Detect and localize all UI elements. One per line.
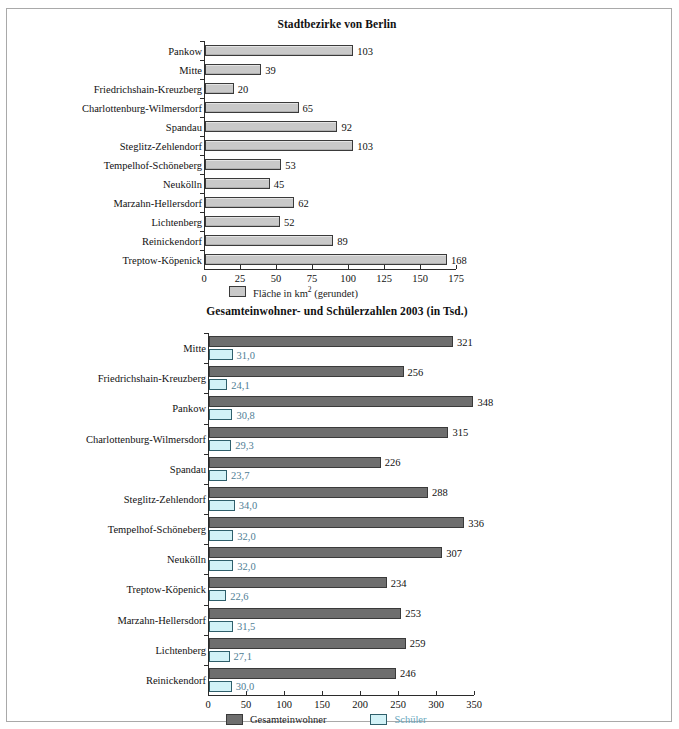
- x-tick-label: 300: [428, 699, 444, 710]
- x-tick: [456, 265, 457, 269]
- category-tick: [204, 514, 208, 515]
- bar-value-label: 23,7: [231, 470, 249, 481]
- category-tick: [200, 231, 204, 232]
- bar-schueler: [209, 681, 232, 692]
- bar-gesamteinwohner: [209, 396, 473, 407]
- bar-value-label: 288: [432, 487, 448, 498]
- legend-label-schueler: Schüler: [394, 714, 426, 725]
- category-tick: [200, 136, 204, 137]
- category-tick: [204, 424, 208, 425]
- category-label: Neukölln: [163, 178, 202, 189]
- x-tick-label: 50: [241, 699, 252, 710]
- category-tick: [204, 363, 208, 364]
- bar-value-label: 30,8: [236, 409, 254, 420]
- category-label: Neukölln: [167, 554, 206, 565]
- x-tick-label: 125: [376, 273, 392, 284]
- legend-item-schueler: Schüler: [370, 714, 426, 725]
- legend-item-area: Fläche in km2 (gerundet): [229, 285, 358, 299]
- chart1-legend: Fläche in km2 (gerundet): [229, 285, 358, 299]
- bar-value-label: 27,1: [234, 651, 252, 662]
- x-tick-label: 150: [412, 273, 428, 284]
- bar-flaeche: [205, 216, 280, 227]
- x-tick-label: 50: [271, 273, 282, 284]
- x-tick-label: 150: [314, 699, 330, 710]
- x-tick: [398, 691, 399, 695]
- x-tick: [204, 265, 205, 269]
- bar-schueler: [209, 379, 227, 390]
- category-label: Spandau: [170, 463, 206, 474]
- bar-schueler: [209, 500, 235, 511]
- category-label: Pankow: [172, 403, 206, 414]
- category-tick: [200, 98, 204, 99]
- category-tick: [204, 454, 208, 455]
- category-label: Steglitz-Zehlendorf: [120, 140, 202, 151]
- bar-value-label: 29,3: [235, 440, 253, 451]
- bar-value-label: 32,0: [237, 530, 255, 541]
- x-tick-label: 250: [390, 699, 406, 710]
- category-label: Charlottenburg-Wilmersdorf: [86, 433, 206, 444]
- bar-gesamteinwohner: [209, 487, 428, 498]
- x-tick: [474, 691, 475, 695]
- category-label: Lichtenberg: [151, 216, 202, 227]
- category-tick: [200, 212, 204, 213]
- bar-gesamteinwohner: [209, 457, 381, 468]
- bar-value-label: 20: [238, 83, 249, 94]
- category-label: Friedrichshain-Kreuzberg: [98, 373, 206, 384]
- category-tick: [200, 155, 204, 156]
- bar-schueler: [209, 470, 227, 481]
- bar-value-label: 34,0: [239, 500, 257, 511]
- x-tick: [284, 691, 285, 695]
- category-label: Marzahn-Hellersdorf: [117, 614, 206, 625]
- bar-gesamteinwohner: [209, 577, 387, 588]
- bar-value-label: 226: [385, 457, 401, 468]
- bar-schueler: [209, 590, 226, 601]
- area-swatch-icon: [229, 286, 246, 297]
- bar-value-label: 62: [298, 197, 309, 208]
- x-tick: [312, 265, 313, 269]
- category-label: Treptow-Köpenick: [122, 254, 202, 265]
- x-tick-label: 100: [276, 699, 292, 710]
- category-label: Reinickendorf: [142, 235, 202, 246]
- category-tick: [200, 174, 204, 175]
- bar-gesamteinwohner: [209, 638, 406, 649]
- chart1-title: Stadtbezirke von Berlin: [7, 18, 667, 30]
- bar-value-label: 89: [337, 235, 348, 246]
- bar-value-label: 92: [341, 121, 352, 132]
- bar-value-label: 103: [357, 140, 373, 151]
- category-label: Steglitz-Zehlendorf: [124, 493, 206, 504]
- bar-value-label: 234: [391, 577, 407, 588]
- bar-value-label: 246: [400, 668, 416, 679]
- bar-value-label: 31,0: [237, 349, 255, 360]
- category-label: Tempelhof-Schöneberg: [104, 159, 202, 170]
- figure-page: Stadtbezirke von Berlin 0255075100125150…: [0, 0, 679, 729]
- category-label: Tempelhof-Schöneberg: [108, 524, 206, 535]
- category-label: Mitte: [183, 343, 206, 354]
- x-tick-label: 0: [205, 699, 210, 710]
- x-tick-label: 100: [340, 273, 356, 284]
- bar-gesamteinwohner: [209, 336, 453, 347]
- chart1-plot-area: 0255075100125150175103392065921035345625…: [204, 41, 464, 269]
- bar-flaeche: [205, 197, 294, 208]
- bar-gesamteinwohner: [209, 668, 396, 679]
- bar-schueler: [209, 440, 231, 451]
- category-tick: [204, 544, 208, 545]
- category-label: Treptow-Köpenick: [126, 584, 206, 595]
- category-tick: [200, 41, 204, 42]
- category-tick: [200, 193, 204, 194]
- bar-value-label: 24,1: [231, 379, 249, 390]
- bar-value-label: 256: [408, 366, 424, 377]
- x-tick: [436, 691, 437, 695]
- category-tick: [204, 333, 208, 334]
- bar-gesamteinwohner: [209, 427, 448, 438]
- bar-gesamteinwohner: [209, 517, 464, 528]
- category-tick: [200, 250, 204, 251]
- bar-value-label: 39: [265, 64, 276, 75]
- category-tick: [204, 635, 208, 636]
- category-label: Reinickendorf: [146, 674, 206, 685]
- bar-flaeche: [205, 178, 270, 189]
- x-tick-label: 200: [352, 699, 368, 710]
- bar-value-label: 65: [303, 102, 314, 113]
- chart2-x-axis: [208, 695, 474, 696]
- chart2-title: Gesamteinwohner- und Schülerzahlen 2003 …: [7, 305, 667, 317]
- x-tick: [360, 691, 361, 695]
